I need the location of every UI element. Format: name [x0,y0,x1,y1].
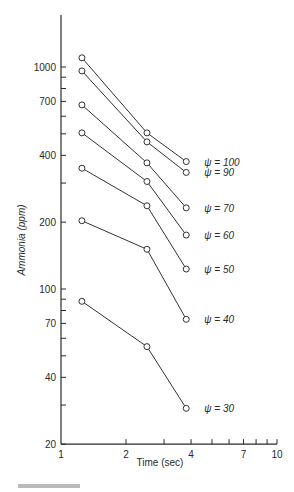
series-6 [79,298,189,411]
data-point-marker [144,160,150,166]
y-tick-label: 1000 [34,62,57,73]
series-label: ψ = 30 [204,403,234,414]
series-1 [79,68,189,176]
chart-container: 2040701002004007001000124710 ψ = 100ψ = … [0,0,294,492]
data-point-marker [79,218,85,224]
data-point-marker [183,405,189,411]
data-point-marker [183,316,189,322]
y-tick-label: 70 [45,318,57,329]
data-point-marker [144,130,150,136]
figure-caption-fragment [18,484,80,488]
y-tick-label: 100 [39,284,56,295]
line-chart: 2040701002004007001000124710 ψ = 100ψ = … [0,0,294,492]
data-point-marker [79,298,85,304]
series-line [82,58,186,162]
data-point-marker [183,159,189,165]
data-point-marker [183,205,189,211]
y-tick-label: 200 [39,217,56,228]
series-5 [79,218,189,323]
data-point-marker [144,178,150,184]
series-label: ψ = 50 [204,264,234,275]
series-line [82,133,186,235]
y-axis-label: Ammonia (ppm) [16,204,27,276]
series-line [82,221,186,320]
series-line [82,71,186,173]
data-point-marker [144,139,150,145]
series-0 [79,55,189,165]
data-point-marker [144,344,150,350]
x-tick-label: 2 [123,449,129,460]
y-tick-label: 700 [39,96,56,107]
data-point-marker [79,165,85,171]
y-tick-label: 40 [45,372,57,383]
series-line [82,105,186,208]
series-labels: ψ = 100ψ = 90ψ = 70ψ = 60ψ = 50ψ = 40ψ =… [204,157,240,415]
x-tick-label: 1 [58,449,64,460]
series-3 [79,130,189,238]
y-tick-label: 400 [39,150,56,161]
data-point-marker [144,203,150,209]
x-tick-label: 7 [241,449,247,460]
y-tick-label: 20 [45,439,57,450]
data-point-marker [144,246,150,252]
series-label: ψ = 100 [204,157,240,168]
x-tick-label: 4 [188,449,194,460]
series-label: ψ = 90 [204,167,234,178]
series-line [82,301,186,408]
series-label: ψ = 40 [204,314,234,325]
data-point-marker [183,232,189,238]
x-axis-label: Time (sec) [137,457,184,468]
data-point-marker [79,68,85,74]
data-point-marker [183,266,189,272]
series-4 [79,165,189,272]
data-point-marker [79,130,85,136]
data-point-marker [79,102,85,108]
series-label: ψ = 60 [204,230,234,241]
series-group [79,55,189,412]
data-point-marker [79,55,85,61]
axes: 2040701002004007001000124710 [34,15,283,460]
series-label: ψ = 70 [204,203,234,214]
data-point-marker [183,169,189,175]
x-tick-label: 10 [271,449,283,460]
series-line [82,168,186,269]
